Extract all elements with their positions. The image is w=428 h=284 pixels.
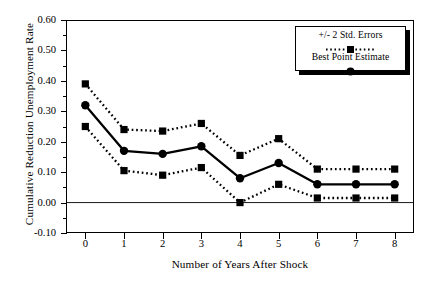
x-tick-mark (240, 233, 241, 239)
x-tick-label: 4 (228, 238, 252, 249)
legend-entry-point-estimate[interactable]: Best Point Estimate (296, 51, 405, 71)
y-tick-label: 0.50 (16, 45, 56, 55)
y-tick-label: -0.10 (16, 228, 56, 238)
y-tick-minor-mark (63, 157, 67, 158)
x-tick-mark (85, 233, 86, 239)
y-tick-mark (61, 172, 67, 173)
y-tick-mark (61, 81, 67, 82)
y-tick-mark (61, 142, 67, 143)
legend-label-point-estimate: Best Point Estimate (296, 51, 405, 62)
legend-label-std-errors: +/- 2 Std. Errors (296, 29, 405, 40)
x-tick-label: 2 (151, 238, 175, 249)
x-tick-mark (124, 233, 125, 239)
x-tick-label: 0 (73, 238, 97, 249)
chart-figure: Cumulative Reduction Unemployment Rate 0… (0, 0, 428, 284)
y-tick-minor-mark (63, 66, 67, 67)
x-axis-title: Number of Years After Shock (66, 258, 414, 270)
legend-entry-std-errors[interactable]: +/- 2 Std. Errors (296, 29, 405, 49)
legend-swatch-point-estimate (296, 62, 405, 71)
y-tick-label: 0.40 (16, 76, 56, 86)
legend-shadow-right (406, 30, 410, 75)
y-tick-mark (61, 111, 67, 112)
y-tick-minor-mark (63, 35, 67, 36)
legend-swatch-std-errors (296, 40, 405, 49)
y-tick-minor-mark (63, 96, 67, 97)
x-tick-mark (201, 233, 202, 239)
chart-legend[interactable]: +/- 2 Std. Errors Best Point Estimate (295, 26, 406, 71)
y-tick-label: 0.10 (16, 167, 56, 177)
x-tick-mark (395, 233, 396, 239)
y-tick-minor-mark (63, 127, 67, 128)
x-tick-mark (317, 233, 318, 239)
y-tick-label: 0.20 (16, 137, 56, 147)
x-tick-label: 7 (344, 238, 368, 249)
y-tick-label: 0.30 (16, 106, 56, 116)
y-tick-minor-mark (63, 218, 67, 219)
x-tick-label: 3 (189, 238, 213, 249)
y-tick-mark (61, 20, 67, 21)
x-tick-label: 1 (112, 238, 136, 249)
x-tick-label: 6 (305, 238, 329, 249)
x-tick-label: 5 (267, 238, 291, 249)
x-tick-mark (163, 233, 164, 239)
y-tick-mark (61, 203, 67, 204)
x-tick-label: 8 (383, 238, 407, 249)
x-tick-mark (356, 233, 357, 239)
x-tick-mark (279, 233, 280, 239)
y-tick-label: 0.60 (16, 15, 56, 25)
y-tick-label: 0.00 (16, 198, 56, 208)
y-tick-mark (61, 50, 67, 51)
y-tick-minor-mark (63, 187, 67, 188)
y-tick-mark (61, 233, 67, 234)
